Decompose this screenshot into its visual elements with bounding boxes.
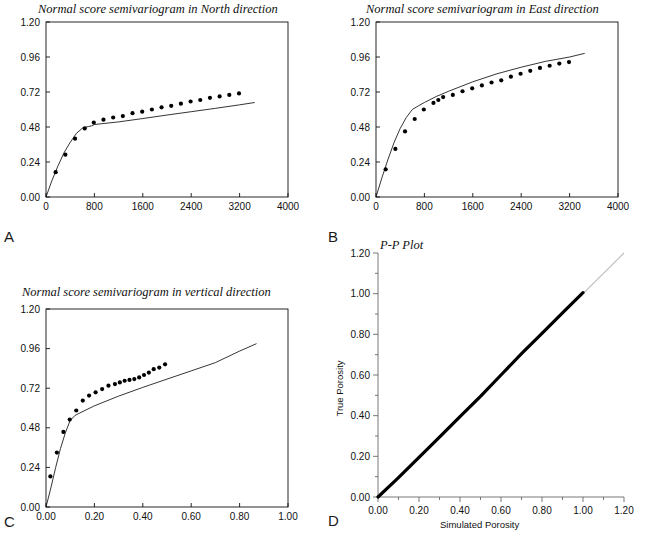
panel-d-title: P-P Plot — [380, 238, 423, 253]
data-point — [113, 382, 117, 386]
data-point — [101, 118, 105, 122]
panel-b-plot: 0.000.240.480.720.961.200800160024003200… — [324, 0, 648, 250]
data-point — [460, 89, 464, 93]
data-point — [518, 72, 522, 76]
panel-d-label: D — [328, 512, 339, 529]
data-point — [94, 390, 98, 394]
x-tick-label: 0.00 — [36, 511, 56, 522]
x-tick-label: 1.00 — [278, 511, 298, 522]
data-point — [48, 474, 52, 478]
panel-d-plot: 0.000.200.400.600.801.001.200.000.200.40… — [324, 235, 648, 535]
data-point — [557, 61, 561, 65]
panel-a-plot: 0.000.240.480.720.961.200800160024003200… — [0, 0, 324, 250]
y-tick-label: 0.72 — [21, 87, 41, 98]
panel-d-xlabel: Simulated Porosity — [440, 519, 519, 530]
x-tick-label: 0.60 — [181, 511, 201, 522]
x-tick-label: 1600 — [132, 201, 155, 212]
x-tick-label: 3200 — [558, 201, 581, 212]
data-point — [55, 450, 59, 454]
data-point — [218, 94, 222, 98]
y-tick-label: 0.96 — [351, 52, 371, 63]
model-semivariogram-line — [46, 344, 257, 507]
x-tick-label: 4000 — [277, 201, 300, 212]
y-tick-label: 0.96 — [21, 52, 41, 63]
data-point — [157, 365, 161, 369]
data-point — [63, 153, 67, 157]
data-point — [142, 373, 146, 377]
y-tick-label: 0.24 — [21, 462, 41, 473]
x-tick-label: 2400 — [180, 201, 203, 212]
data-point — [198, 98, 202, 102]
data-point — [123, 379, 127, 383]
x-tick-label: 0.80 — [532, 505, 552, 516]
data-point — [152, 367, 156, 371]
data-point — [74, 408, 78, 412]
x-tick-label: 0.20 — [409, 505, 429, 516]
y-tick-label: 0.80 — [351, 329, 371, 340]
data-point — [130, 111, 134, 115]
x-tick-label: 0.20 — [85, 511, 105, 522]
plot-frame — [46, 309, 288, 507]
panel-a-title: Normal score semivariogram in North dire… — [38, 2, 278, 17]
panel-c-label: C — [4, 513, 15, 530]
y-tick-label: 0.24 — [21, 157, 41, 168]
data-point — [81, 398, 85, 402]
data-point — [208, 96, 212, 100]
y-tick-label: 0.00 — [21, 192, 41, 203]
data-point — [61, 430, 65, 434]
x-tick-label: 1.20 — [614, 505, 634, 516]
data-point — [127, 378, 131, 382]
data-point — [441, 95, 445, 99]
data-point — [470, 86, 474, 90]
data-point — [111, 115, 115, 119]
y-tick-label: 0.00 — [351, 192, 371, 203]
data-point — [422, 107, 426, 111]
panel-d-ylabel: True Porosity — [334, 360, 345, 416]
y-tick-label: 1.20 — [21, 17, 41, 28]
x-tick-label: 2400 — [510, 201, 533, 212]
y-tick-label: 0.20 — [351, 451, 371, 462]
data-point — [179, 102, 183, 106]
data-point — [118, 380, 122, 384]
data-point — [132, 377, 136, 381]
x-tick-label: 0.00 — [368, 505, 388, 516]
panel-c-title: Normal score semivariogram in vertical d… — [22, 285, 271, 300]
panel-d: P-P Plot 0.000.200.400.600.801.001.200.0… — [324, 235, 648, 535]
x-tick-label: 0 — [43, 201, 49, 212]
data-point — [403, 129, 407, 133]
data-point — [140, 110, 144, 114]
data-point — [87, 394, 91, 398]
x-tick-label: 0.60 — [491, 505, 511, 516]
data-point — [431, 101, 435, 105]
model-semivariogram-line — [46, 103, 255, 198]
y-tick-label: 1.20 — [21, 304, 41, 315]
data-point — [393, 147, 397, 151]
data-point — [499, 78, 503, 82]
data-point — [567, 60, 571, 64]
x-tick-label: 800 — [416, 201, 433, 212]
x-tick-label: 0.40 — [450, 505, 470, 516]
y-tick-label: 0.60 — [351, 370, 371, 381]
data-point — [159, 105, 163, 109]
x-tick-label: 4000 — [607, 201, 630, 212]
data-point — [100, 387, 104, 391]
data-point — [54, 170, 58, 174]
data-point — [169, 104, 173, 108]
y-tick-label: 0.40 — [351, 410, 371, 421]
data-point — [237, 91, 241, 95]
data-point — [548, 64, 552, 68]
panel-b: Normal score semivariogram in East direc… — [324, 0, 648, 250]
data-point — [163, 362, 167, 366]
data-point — [147, 370, 151, 374]
y-tick-label: 0.48 — [21, 422, 41, 433]
data-point — [384, 167, 388, 171]
plot-frame — [46, 22, 288, 197]
data-point — [137, 375, 141, 379]
y-tick-label: 0.48 — [351, 122, 371, 133]
data-point — [538, 66, 542, 70]
y-tick-label: 0.72 — [21, 383, 41, 394]
pp-band-line — [378, 293, 583, 497]
data-point — [509, 75, 513, 79]
data-point — [73, 137, 77, 141]
data-point — [528, 69, 532, 73]
